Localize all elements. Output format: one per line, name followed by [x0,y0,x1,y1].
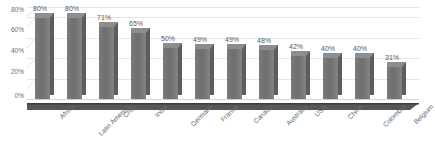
y-axis: 80% 60% 40% 20% 0% [0,0,27,103]
x-axis-label-africa: Africa [58,103,76,121]
bar-value-label: 40% [314,45,342,53]
bar-value-label: 80% [58,5,86,13]
bar-front-face [259,49,274,99]
bar-side-face [82,13,86,95]
bar-value-label: 49% [186,36,214,44]
bar-front-face [35,17,50,99]
chart-floor [27,96,419,103]
bar-side-face [370,53,374,95]
x-axis-label-colombia: Colombia [381,103,407,129]
bar-top-face [163,43,178,48]
plot-area: 80% 80% 71% [27,7,419,99]
bar-side-face [242,44,246,95]
bar-value-label: 42% [282,43,310,51]
bar-top-face [355,53,370,58]
x-axis-label-australia: Australia [285,103,309,127]
bar-value-label: 50% [154,35,182,43]
bar-value-label: 31% [378,54,406,62]
y-axis-tick-label: 40% [11,47,24,54]
bar-side-face [178,43,182,95]
bar-side-face [146,28,150,95]
bar-top-face [67,13,82,18]
y-axis-tick-label: 80% [11,6,24,13]
bar-africa[interactable] [35,17,50,99]
bar-value-label: 49% [218,36,246,44]
bar-australia[interactable] [259,49,274,99]
bar-top-face [227,44,242,49]
bar-side-face [210,44,214,95]
y-axis-tick-label: 0% [15,92,24,99]
bar-top-face [99,22,114,27]
bar-value-label: 65% [122,20,150,28]
y-axis-tick-label: 20% [11,68,24,75]
bar-china[interactable] [323,57,338,99]
bar-front-face [195,48,210,99]
bar-front-face [227,48,242,99]
x-axis-label-india: India [153,103,169,119]
x-axis-label-germany: Germany [189,103,214,128]
bar-front-face [99,26,114,99]
bar-canada[interactable] [227,48,242,99]
bar-value-label: 40% [346,45,374,53]
bar-front-face [291,55,306,99]
bar-side-face [114,22,118,95]
bar-front-face [163,47,178,99]
bar-top-face [35,13,50,18]
y-axis-tick-label: 60% [11,26,24,33]
bar-side-face [274,45,278,95]
bar-india[interactable] [131,32,146,99]
bar-latin-america[interactable] [67,17,82,99]
x-axis-label-china: China [346,103,364,121]
bar-colombia[interactable] [355,57,370,99]
bar-value-label: 71% [90,14,118,22]
bar-top-face [131,28,146,33]
x-axis-label-france: France [219,103,240,124]
bar-value-label: 48% [250,37,278,45]
x-axis-label-canada: Canada [252,103,274,125]
bar-front-face [67,17,82,99]
bar-side-face [50,13,54,95]
x-axis: Africa Latin America Chile India Germany… [27,103,419,149]
bar-front-face [131,32,146,99]
bar-top-face [323,53,338,58]
bar-belgium[interactable] [387,66,402,99]
bar-germany[interactable] [163,47,178,99]
bar-series: 80% 80% 71% [27,7,419,99]
x-axis-label-belgium: Belgium [412,103,435,126]
bar-front-face [387,66,402,99]
bar-top-face [291,51,306,56]
bar-france[interactable] [195,48,210,99]
bar-side-face [306,51,310,95]
bar-value-label: 80% [26,5,54,13]
bar-front-face [323,57,338,99]
x-axis-label-usa: USA [313,103,329,119]
bar-top-face [195,44,210,49]
bar-front-face [355,57,370,99]
bar-chile[interactable] [99,26,114,99]
bar-side-face [338,53,342,95]
bar-usa[interactable] [291,55,306,99]
bar-top-face [259,45,274,50]
bar-top-face [387,62,402,67]
